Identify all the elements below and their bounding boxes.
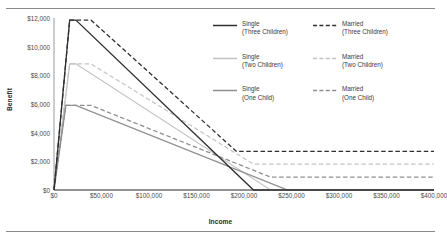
legend-item[interactable]: Married(Three Children) xyxy=(313,20,435,53)
legend-label-children: (Two Children) xyxy=(342,61,383,69)
legend-label-children: (One Child) xyxy=(242,94,274,102)
legend-item[interactable]: Married(Two Children) xyxy=(313,53,435,86)
x-tick-label: $50,000 xyxy=(90,192,113,199)
legend-label: Single(Three Children) xyxy=(242,20,288,37)
legend-label: Married(Two Children) xyxy=(342,53,383,70)
legend-label-marital: Married xyxy=(342,53,363,60)
x-tick-label: $150,000 xyxy=(183,192,209,199)
legend-item[interactable]: Single(Two Children) xyxy=(213,53,313,86)
x-tick-label: $350,000 xyxy=(373,192,399,199)
legend-swatch-solid-icon xyxy=(213,54,237,63)
series-line-married-one-child xyxy=(54,105,434,190)
legend-swatch-dashed-icon xyxy=(313,86,337,95)
legend-label-marital: Single xyxy=(242,53,260,60)
series-line-single-one-child xyxy=(54,105,434,190)
legend-swatch-solid-icon xyxy=(213,86,237,95)
top-divider-rule xyxy=(6,8,435,9)
legend-label-children: (Three Children) xyxy=(242,28,288,36)
legend-label-marital: Single xyxy=(242,85,260,92)
y-tick-label: $6,000 xyxy=(2,101,50,108)
x-tick-label: $0 xyxy=(50,192,57,199)
x-tick-label: $100,000 xyxy=(136,192,162,199)
y-tick-label: $0 xyxy=(2,187,50,194)
y-tick-label: $2,000 xyxy=(2,158,50,165)
y-tick-label: $10,000 xyxy=(2,43,50,50)
legend-item[interactable]: Married(One Child) xyxy=(313,85,435,118)
legend-swatch-dashed-icon xyxy=(313,21,337,30)
legend-label-marital: Married xyxy=(342,85,363,92)
x-axis-tick-labels: $0$50,000$100,000$150,000$200,000$250,00… xyxy=(54,192,434,206)
x-tick-label: $250,000 xyxy=(278,192,304,199)
chart-legend: Single(Three Children)Married(Three Chil… xyxy=(213,20,435,118)
x-tick-label: $400,000 xyxy=(421,192,447,199)
legend-label-children: (Three Children) xyxy=(342,28,388,36)
x-tick-label: $300,000 xyxy=(326,192,352,199)
x-axis-label: Income xyxy=(0,218,441,225)
bottom-divider-rule xyxy=(6,231,435,232)
legend-label: Single(Two Children) xyxy=(242,53,283,70)
legend-label: Married(One Child) xyxy=(342,85,374,102)
legend-label-marital: Single xyxy=(242,20,260,27)
y-tick-label: $4,000 xyxy=(2,129,50,136)
legend-swatch-dashed-icon xyxy=(313,54,337,63)
legend-item[interactable]: Single(One Child) xyxy=(213,85,313,118)
legend-label: Single(One Child) xyxy=(242,85,274,102)
legend-item[interactable]: Single(Three Children) xyxy=(213,20,313,53)
legend-label: Married(Three Children) xyxy=(342,20,388,37)
legend-label-children: (Two Children) xyxy=(242,61,283,69)
legend-swatch-solid-icon xyxy=(213,21,237,30)
y-tick-label: $8,000 xyxy=(2,72,50,79)
y-axis-tick-labels: $0$2,000$4,000$6,000$8,000$10,000$12,000 xyxy=(0,18,50,190)
legend-label-marital: Married xyxy=(342,20,363,27)
legend-label-children: (One Child) xyxy=(342,94,374,102)
x-tick-label: $200,000 xyxy=(231,192,257,199)
y-tick-label: $12,000 xyxy=(2,15,50,22)
